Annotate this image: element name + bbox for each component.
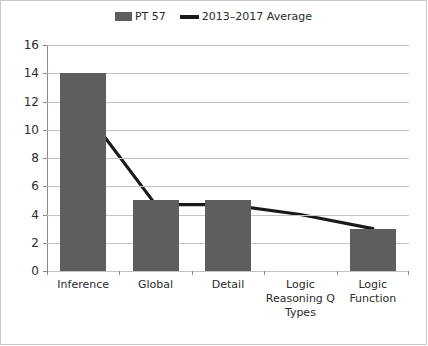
x-axis-tick [337,271,338,275]
y-axis-label: 12 [24,95,39,109]
legend-label-pt-57: PT 57 [135,11,166,22]
x-axis-tick [192,271,193,275]
legend-bar-swatch-icon [115,12,132,21]
gridline [47,45,409,46]
chart-legend: PT 57 2013–2017 Average [1,11,426,22]
x-axis-tick [264,271,265,275]
chart-container: PT 57 2013–2017 Average 0246810121416Inf… [0,0,427,345]
x-axis-label: Logic Reasoning Q Types [264,278,336,319]
plot-area: 0246810121416InferenceGlobalDetailLogic … [47,45,409,271]
y-axis-label: 0 [31,264,39,278]
y-axis-label: 2 [31,236,39,250]
legend-line-swatch-icon [180,15,199,19]
y-axis-label: 8 [31,151,39,165]
bar [350,229,396,271]
x-axis-label: Logic Function [337,278,409,306]
y-axis-label: 10 [24,123,39,137]
bar [205,200,251,271]
x-axis-tick [47,271,48,275]
x-axis-tick [119,271,120,275]
y-axis-label: 6 [31,179,39,193]
gridline [47,271,409,272]
y-axis-label: 4 [31,208,39,222]
legend-item-average: 2013–2017 Average [180,11,312,22]
bar [133,200,179,271]
x-axis-tick [408,271,409,275]
y-axis-label: 14 [24,66,39,80]
bar [60,73,106,271]
y-axis-label: 16 [24,38,39,52]
legend-item-pt-57: PT 57 [115,11,166,22]
x-axis-label: Global [119,278,191,292]
x-axis-label: Inference [47,278,119,292]
x-axis-label: Detail [192,278,264,292]
legend-label-average: 2013–2017 Average [202,11,312,22]
